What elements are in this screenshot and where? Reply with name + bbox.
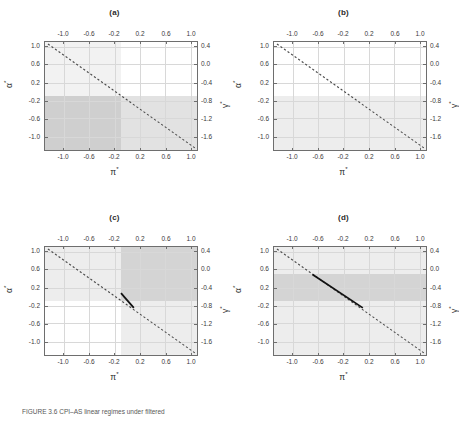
- y-left-tick-label: 0.6: [243, 60, 269, 67]
- tick-top: [114, 41, 115, 44]
- tick-right: [423, 251, 426, 252]
- tick-bottom: [166, 353, 167, 356]
- tick-bottom: [89, 148, 90, 151]
- tick-left: [274, 64, 277, 65]
- tick-top: [318, 246, 319, 249]
- y-right-tick-label: 0.0: [430, 60, 456, 67]
- tick-left: [45, 288, 48, 289]
- y-left-tick-label: 0.6: [14, 60, 40, 67]
- y-left-tick-label: -1.0: [14, 133, 40, 140]
- x-tick-label-top: 1.0: [176, 235, 206, 242]
- panel-b-title: (b): [229, 8, 458, 17]
- tick-right: [423, 342, 426, 343]
- panel-b-plot-area: [273, 41, 427, 151]
- tick-bottom: [343, 148, 344, 151]
- tick-bottom: [318, 148, 319, 151]
- tick-left: [45, 342, 48, 343]
- tick-right: [423, 101, 426, 102]
- y-left-tick-label: 1.0: [14, 42, 40, 49]
- y-left-tick-label: 0.6: [243, 265, 269, 272]
- tick-bottom: [114, 353, 115, 356]
- tick-bottom: [369, 148, 370, 151]
- tick-top: [140, 41, 141, 44]
- tick-bottom: [114, 148, 115, 151]
- tick-bottom: [191, 148, 192, 151]
- x-tick-label-top: 1.0: [405, 235, 435, 242]
- y-right-axis-title: γ*: [447, 101, 459, 108]
- x-tick-label-top: 1.0: [176, 30, 206, 37]
- y-right-axis-title: γ*: [447, 306, 459, 313]
- tick-bottom: [166, 148, 167, 151]
- tick-top: [420, 41, 421, 44]
- tick-right: [194, 324, 197, 325]
- y-right-tick-label: -1.6: [430, 338, 456, 345]
- tick-right: [423, 306, 426, 307]
- tick-left: [45, 83, 48, 84]
- tick-right: [194, 83, 197, 84]
- y-right-tick-label: -1.2: [201, 115, 227, 122]
- tick-bottom: [89, 353, 90, 356]
- tick-top: [420, 246, 421, 249]
- tick-top: [63, 41, 64, 44]
- tick-right: [194, 342, 197, 343]
- y-left-tick-label: -0.2: [243, 302, 269, 309]
- y-right-tick-label: -1.6: [430, 133, 456, 140]
- tick-bottom: [191, 353, 192, 356]
- tick-left: [45, 324, 48, 325]
- tick-bottom: [343, 353, 344, 356]
- y-left-tick-label: 1.0: [14, 247, 40, 254]
- tick-top: [166, 41, 167, 44]
- tick-left: [45, 46, 48, 47]
- panel-b: (b): [229, 0, 458, 200]
- tick-top: [292, 41, 293, 44]
- tick-right: [194, 119, 197, 120]
- y-right-tick-label: 0.4: [430, 42, 456, 49]
- y-left-tick-label: 1.0: [243, 247, 269, 254]
- y-right-tick-label: -0.4: [201, 284, 227, 291]
- y-left-tick-label: -0.2: [243, 97, 269, 104]
- panel-d: (d): [229, 205, 458, 405]
- panel-a-lines: [45, 42, 197, 150]
- tick-top: [191, 41, 192, 44]
- tick-left: [274, 251, 277, 252]
- tick-right: [423, 46, 426, 47]
- panel-a-plot-area: [44, 41, 198, 151]
- tick-right: [423, 119, 426, 120]
- y-left-axis-title: α*: [231, 81, 243, 88]
- tick-top: [89, 41, 90, 44]
- tick-top: [114, 246, 115, 249]
- panel-d-plot-area: [273, 246, 427, 356]
- tick-bottom: [420, 148, 421, 151]
- tick-left: [274, 83, 277, 84]
- tick-left: [274, 137, 277, 138]
- tick-right: [194, 101, 197, 102]
- tick-left: [274, 306, 277, 307]
- tick-left: [45, 137, 48, 138]
- tick-right: [423, 288, 426, 289]
- tick-bottom: [369, 353, 370, 356]
- tick-top: [369, 246, 370, 249]
- tick-right: [194, 64, 197, 65]
- tick-bottom: [292, 353, 293, 356]
- y-right-tick-label: 0.4: [201, 42, 227, 49]
- y-left-tick-label: -0.6: [243, 115, 269, 122]
- tick-top: [395, 41, 396, 44]
- y-right-tick-label: -1.2: [430, 115, 456, 122]
- y-left-axis-title: α*: [2, 81, 14, 88]
- tick-bottom: [63, 353, 64, 356]
- tick-top: [89, 246, 90, 249]
- tick-left: [274, 269, 277, 270]
- y-right-tick-label: -1.6: [201, 133, 227, 140]
- y-right-tick-label: -1.6: [201, 338, 227, 345]
- panel-b-lines: [274, 42, 426, 150]
- dashed-boundary-line: [48, 249, 195, 353]
- y-left-tick-label: -0.2: [14, 97, 40, 104]
- y-left-tick-label: 0.6: [14, 265, 40, 272]
- y-right-tick-label: -1.2: [201, 320, 227, 327]
- y-left-tick-label: 1.0: [243, 42, 269, 49]
- tick-top: [166, 246, 167, 249]
- tick-right: [423, 324, 426, 325]
- tick-left: [274, 119, 277, 120]
- x-tick-label-top: 1.0: [405, 30, 435, 37]
- tick-left: [274, 101, 277, 102]
